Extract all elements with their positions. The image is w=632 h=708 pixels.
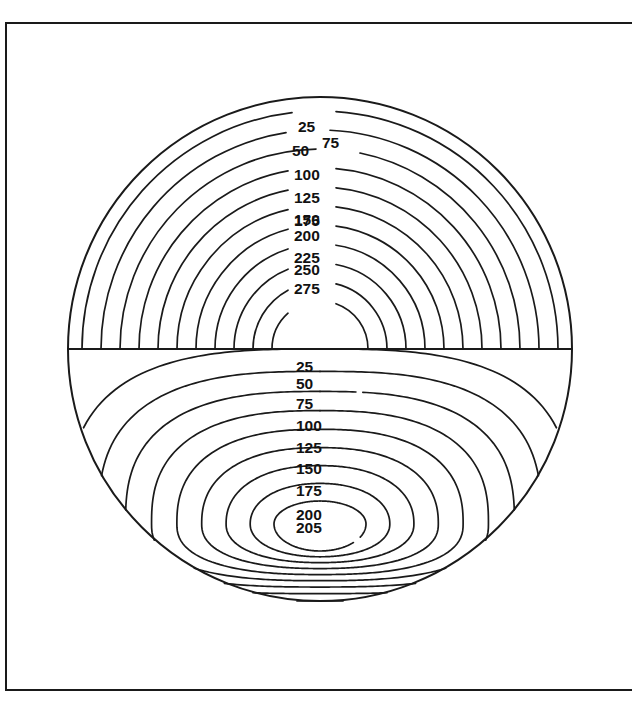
upper-contour-labels: 255075100125150175200225250275 [292, 118, 340, 297]
lower-contour-label-205-8: 205 [296, 519, 322, 536]
upper-contour-label-250-9: 250 [294, 261, 320, 278]
lower-contour-25-seg136 [84, 349, 320, 428]
upper-contour-label-100-3: 100 [294, 166, 320, 183]
upper-contour-label-50-1: 50 [292, 142, 309, 159]
upper-contour-label-275-10: 275 [294, 280, 320, 297]
upper-contour-50-right [330, 130, 539, 349]
lower-contour-label-75-2: 75 [296, 395, 314, 412]
lower-contour-205-seg0 [320, 501, 366, 537]
lower-contour-label-100-3: 100 [296, 417, 322, 434]
upper-contour-150-right [336, 207, 463, 349]
upper-contour-275-left [272, 313, 288, 349]
lower-contour-75-seg1 [363, 392, 514, 510]
upper-contour-25-left [82, 113, 292, 349]
upper-contour-25-right [336, 112, 558, 349]
lower-contour-label-175-6: 175 [296, 482, 322, 499]
upper-contour-250-right [336, 284, 387, 349]
upper-contour-label-200-7: 200 [294, 227, 320, 244]
upper-contour-175-right [336, 226, 444, 349]
contour-figure: 255075100125150175200225250275 255075100… [0, 0, 632, 708]
lower-contour-75-seg26 [224, 583, 415, 587]
upper-contour-175-left [196, 229, 288, 349]
lower-contour-50-seg82 [102, 371, 320, 475]
upper-contour-200-left [215, 249, 288, 349]
lower-contour-50-seg0 [320, 371, 538, 475]
lower-contour-75-seg0 [320, 391, 356, 392]
upper-contour-150-left [177, 210, 288, 349]
upper-contour-200-right [336, 245, 425, 349]
upper-contour-225-left [234, 269, 288, 349]
upper-contour-label-125-4: 125 [294, 189, 320, 206]
lower-contour-25-seg0 [320, 349, 556, 428]
upper-contour-275-right [336, 304, 368, 349]
upper-contour-label-75-2: 75 [322, 134, 340, 151]
lower-contour-label-125-4: 125 [296, 439, 322, 456]
upper-half-contours [82, 112, 558, 349]
contour-plot: 255075100125150175200225250275 255075100… [0, 0, 632, 708]
lower-contour-label-150-5: 150 [296, 460, 322, 477]
lower-contour-50-seg41 [253, 593, 387, 594]
upper-contour-label-25-0: 25 [298, 118, 316, 135]
lower-contour-label-50-1: 50 [296, 375, 313, 392]
lower-contour-label-25-0: 25 [296, 358, 314, 375]
upper-contour-125-left [158, 190, 288, 349]
lower-contour-labels: 255075100125150175200205 [296, 358, 322, 536]
plate-caption-strip [0, 694, 632, 708]
